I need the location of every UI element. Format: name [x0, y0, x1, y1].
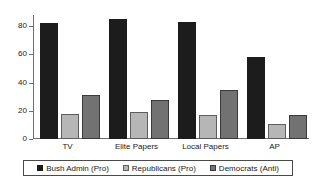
- x-axis-label: TV: [33, 142, 102, 152]
- bar: [268, 124, 286, 140]
- y-tick-label-60: 60: [1, 50, 27, 58]
- legend-swatch-icon: [37, 165, 43, 171]
- x-axis-label: Local Papers: [171, 142, 240, 152]
- bar-group: [247, 15, 307, 139]
- y-tick-label-80: 80: [1, 22, 27, 30]
- bar: [199, 115, 217, 139]
- bar: [82, 95, 100, 139]
- bar-group: [40, 15, 100, 139]
- y-tick-label-40: 40: [1, 79, 27, 87]
- plot-area: [33, 15, 309, 139]
- bar: [40, 23, 58, 139]
- bar: [220, 90, 238, 139]
- bar: [289, 115, 307, 139]
- x-axis-label: Elite Papers: [102, 142, 171, 152]
- bar: [178, 22, 196, 139]
- bar-group: [178, 15, 238, 139]
- bar: [61, 114, 79, 139]
- y-tick-label-0: 0: [1, 135, 27, 143]
- bar: [151, 100, 169, 139]
- bar: [109, 19, 127, 139]
- y-tick-label-20: 20: [1, 107, 27, 115]
- legend-item: Bush Admin (Pro): [37, 164, 109, 173]
- legend-item: Republicans (Pro): [123, 164, 196, 173]
- x-axis-label: AP: [240, 142, 309, 152]
- bar: [130, 112, 148, 139]
- legend-label: Bush Admin (Pro): [46, 164, 109, 173]
- legend-label: Republicans (Pro): [132, 164, 196, 173]
- legend-item: Democrats (Anti): [210, 164, 279, 173]
- bar: [247, 57, 265, 139]
- chart-legend: Bush Admin (Pro)Republicans (Pro)Democra…: [23, 160, 293, 176]
- y-axis-labels: 020406080: [0, 0, 27, 183]
- bar-chart: 020406080 TVElite PapersLocal PapersAP B…: [0, 0, 316, 183]
- y-tick-0: [29, 139, 33, 140]
- bar-group: [109, 15, 169, 139]
- legend-swatch-icon: [210, 165, 216, 171]
- legend-label: Democrats (Anti): [219, 164, 279, 173]
- legend-swatch-icon: [123, 165, 129, 171]
